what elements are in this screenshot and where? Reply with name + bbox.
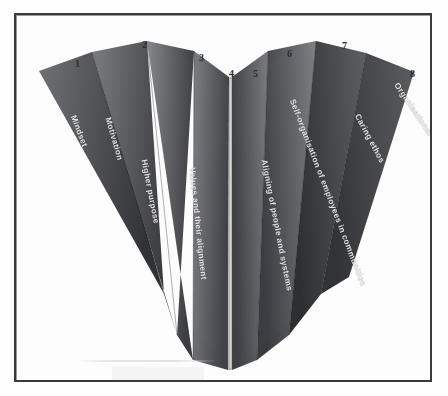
panel-number-7: 7	[342, 41, 347, 51]
panel-number-4: 4	[229, 69, 234, 79]
panel-number-1: 1	[75, 59, 80, 69]
panel-number-5: 5	[253, 69, 258, 79]
panel-number-3: 3	[199, 53, 204, 63]
heart-diagram-figure: 1 2 3 4 5 6 7 8 Mindset Motivation Highe…	[0, 0, 448, 396]
panel-number-2: 2	[142, 40, 147, 50]
paper-grain-overlay	[39, 41, 414, 370]
panel-number-6: 6	[287, 49, 292, 59]
panel-number-8: 8	[410, 69, 415, 79]
heart-stage: 1 2 3 4 5 6 7 8 Mindset Motivation Highe…	[16, 15, 430, 380]
heart-shape-svg	[16, 15, 430, 380]
